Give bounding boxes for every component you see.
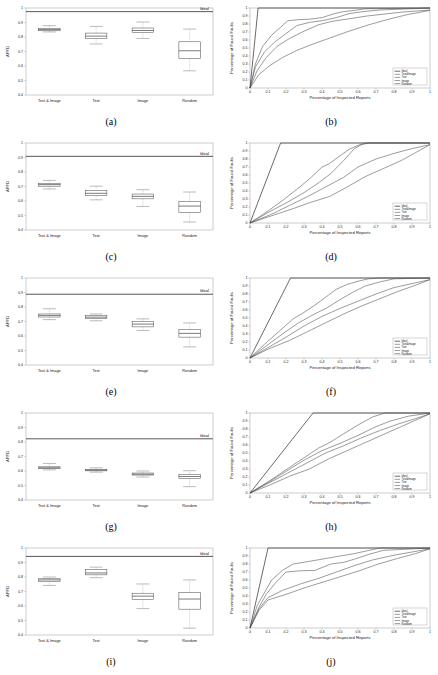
svg-text:0.1: 0.1 xyxy=(266,225,271,229)
svg-text:0.8: 0.8 xyxy=(242,562,247,566)
svg-text:1: 1 xyxy=(21,276,23,280)
panel-label-b: (b) xyxy=(224,116,438,127)
svg-text:Percentage of Found Faults: Percentage of Found Faults xyxy=(229,427,234,479)
svg-text:0.6: 0.6 xyxy=(242,308,247,312)
svg-text:0.9: 0.9 xyxy=(242,419,247,423)
svg-text:APFD: APFD xyxy=(5,316,10,327)
svg-text:0.9: 0.9 xyxy=(410,225,415,229)
svg-text:0.4: 0.4 xyxy=(242,54,247,58)
panel-i-cell: 0.40.50.60.70.80.91APFDText & ImageTextI… xyxy=(0,540,222,658)
panel-h-cell: 00.10.20.30.40.50.60.70.80.9100.10.20.30… xyxy=(224,405,438,523)
svg-text:Percentage of Found Faults: Percentage of Found Faults xyxy=(229,22,234,74)
svg-text:Percentage of Inspected Report: Percentage of Inspected Reports xyxy=(309,95,370,100)
svg-text:0.9: 0.9 xyxy=(18,561,23,565)
panel-f-cell: 00.10.20.30.40.50.60.70.80.9100.10.20.30… xyxy=(224,270,438,388)
svg-text:0.7: 0.7 xyxy=(18,590,23,594)
svg-text:Text: Text xyxy=(93,98,101,103)
svg-text:0.4: 0.4 xyxy=(320,360,325,364)
svg-text:0.6: 0.6 xyxy=(356,360,361,364)
panel-c-cell: 0.40.50.60.70.80.91APFDText & ImageTextI… xyxy=(0,135,222,253)
svg-text:0.3: 0.3 xyxy=(302,90,307,94)
svg-text:0: 0 xyxy=(249,630,251,634)
panel-i-boxplot: 0.40.50.60.70.80.91APFDText & ImageTextI… xyxy=(0,540,222,658)
figure-row-4: 0.40.50.60.70.80.91APFDText & ImageTextI… xyxy=(0,405,438,540)
svg-text:0.2: 0.2 xyxy=(284,630,289,634)
svg-text:0.7: 0.7 xyxy=(242,165,247,169)
svg-text:APFD: APFD xyxy=(5,586,10,597)
svg-text:0.9: 0.9 xyxy=(410,495,415,499)
svg-text:0.9: 0.9 xyxy=(242,149,247,153)
svg-text:Percentage of Inspected Report: Percentage of Inspected Reports xyxy=(309,500,370,505)
svg-text:Random: Random xyxy=(402,82,413,86)
panel-g-boxplot: 0.40.50.60.70.80.91APFDText & ImageTextI… xyxy=(0,405,222,523)
svg-text:0.7: 0.7 xyxy=(242,435,247,439)
svg-text:0.4: 0.4 xyxy=(320,630,325,634)
svg-text:0.2: 0.2 xyxy=(284,90,289,94)
panel-label-e: (e) xyxy=(0,386,222,397)
svg-text:0.8: 0.8 xyxy=(18,305,23,309)
panel-g-cell: 0.40.50.60.70.80.91APFDText & ImageTextI… xyxy=(0,405,222,523)
svg-text:Text & Image: Text & Image xyxy=(38,638,61,643)
svg-text:0.5: 0.5 xyxy=(242,586,247,590)
panel-label-d: (d) xyxy=(224,251,438,262)
svg-text:0.2: 0.2 xyxy=(242,340,247,344)
svg-text:0.2: 0.2 xyxy=(242,475,247,479)
svg-text:0.7: 0.7 xyxy=(18,50,23,54)
svg-text:Percentage of Inspected Report: Percentage of Inspected Reports xyxy=(309,230,370,235)
svg-text:0.8: 0.8 xyxy=(392,360,397,364)
svg-text:0.1: 0.1 xyxy=(266,630,271,634)
svg-text:Image: Image xyxy=(137,503,148,508)
svg-text:0.6: 0.6 xyxy=(18,334,23,338)
svg-text:0.5: 0.5 xyxy=(338,495,343,499)
svg-text:Text & Image: Text & Image xyxy=(38,98,61,103)
svg-text:0.3: 0.3 xyxy=(242,467,247,471)
svg-text:0.6: 0.6 xyxy=(242,443,247,447)
svg-text:0.3: 0.3 xyxy=(302,630,307,634)
svg-text:0.6: 0.6 xyxy=(356,495,361,499)
panel-label-j: (j) xyxy=(224,656,438,667)
svg-text:0.6: 0.6 xyxy=(18,64,23,68)
svg-text:Ideal: Ideal xyxy=(200,151,209,156)
svg-text:Percentage of Found Faults: Percentage of Found Faults xyxy=(229,292,234,344)
svg-text:0.5: 0.5 xyxy=(18,79,23,83)
svg-text:0.8: 0.8 xyxy=(242,22,247,26)
svg-text:Image: Image xyxy=(137,368,148,373)
svg-text:0.7: 0.7 xyxy=(374,225,379,229)
svg-text:0.6: 0.6 xyxy=(18,469,23,473)
svg-text:0.5: 0.5 xyxy=(242,181,247,185)
svg-text:0: 0 xyxy=(245,626,247,630)
svg-text:Image: Image xyxy=(137,638,148,643)
panel-c-boxplot: 0.40.50.60.70.80.91APFDText & ImageTextI… xyxy=(0,135,222,253)
svg-text:0.4: 0.4 xyxy=(320,495,325,499)
svg-text:0.8: 0.8 xyxy=(392,630,397,634)
panel-j-cell: 00.10.20.30.40.50.60.70.80.9100.10.20.30… xyxy=(224,540,438,658)
svg-text:0.2: 0.2 xyxy=(242,70,247,74)
svg-text:1: 1 xyxy=(245,6,247,10)
svg-text:1: 1 xyxy=(429,360,431,364)
svg-text:0: 0 xyxy=(249,360,251,364)
svg-text:0.7: 0.7 xyxy=(18,185,23,189)
svg-text:0.1: 0.1 xyxy=(266,495,271,499)
svg-text:0.8: 0.8 xyxy=(18,35,23,39)
svg-text:0.6: 0.6 xyxy=(18,604,23,608)
svg-text:Text & Image: Text & Image xyxy=(38,368,61,373)
svg-text:Percentage of Found Faults: Percentage of Found Faults xyxy=(229,157,234,209)
panel-label-i: (i) xyxy=(0,656,222,667)
svg-text:0.3: 0.3 xyxy=(242,602,247,606)
svg-text:0.4: 0.4 xyxy=(18,363,23,367)
svg-text:0.4: 0.4 xyxy=(242,189,247,193)
svg-text:1: 1 xyxy=(245,276,247,280)
svg-text:1: 1 xyxy=(429,90,431,94)
svg-text:0.4: 0.4 xyxy=(242,594,247,598)
svg-text:0.4: 0.4 xyxy=(320,90,325,94)
panel-d-curve: 00.10.20.30.40.50.60.70.80.9100.10.20.30… xyxy=(224,135,438,253)
svg-text:0.1: 0.1 xyxy=(266,360,271,364)
svg-text:0.8: 0.8 xyxy=(242,427,247,431)
svg-text:0.7: 0.7 xyxy=(18,320,23,324)
svg-text:Random: Random xyxy=(402,487,413,491)
svg-text:0.6: 0.6 xyxy=(356,225,361,229)
svg-text:Random: Random xyxy=(182,368,197,373)
svg-text:Random: Random xyxy=(402,217,413,221)
svg-text:0: 0 xyxy=(249,225,251,229)
svg-text:0.5: 0.5 xyxy=(242,316,247,320)
